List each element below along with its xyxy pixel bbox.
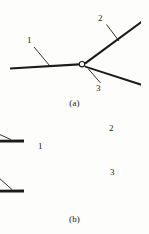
branch-2-line	[85, 21, 142, 64]
port-2-line	[0, 140, 24, 143]
panel-b-label-2-leader	[0, 134, 11, 140]
label-1-leader	[34, 47, 50, 66]
port-3-line	[0, 190, 24, 193]
panel-b-label-3-leader	[0, 178, 12, 190]
panel-b-label-1: 1	[38, 142, 43, 151]
figure-container: 1 2 3 (a)	[0, 0, 149, 234]
panel-a-label-1: 1	[27, 36, 32, 45]
junction-node	[79, 61, 84, 66]
panel-a-label-2: 2	[98, 14, 103, 23]
branch-3-line	[85, 66, 142, 86]
panel-b-caption: (b)	[0, 214, 149, 224]
branch-1-line	[10, 63, 79, 69]
panel-b-label-3: 3	[110, 168, 115, 177]
panel-a-label-3: 3	[96, 84, 101, 93]
panel-a-caption: (a)	[0, 98, 149, 108]
panel-b-label-2: 2	[109, 124, 114, 133]
label-2-leader	[107, 25, 120, 42]
